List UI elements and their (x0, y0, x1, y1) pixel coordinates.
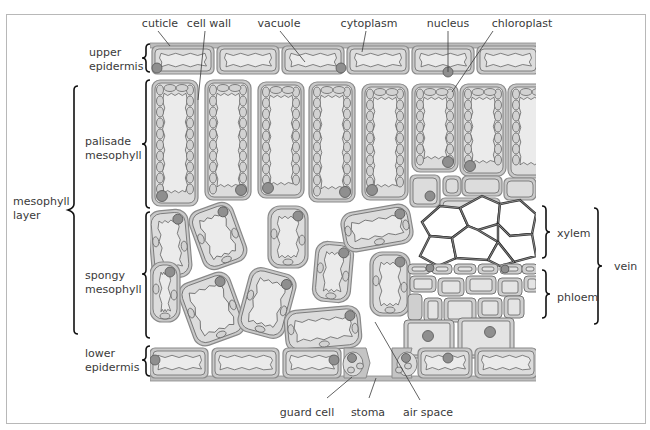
chloroplast (397, 155, 404, 165)
chloroplast (465, 122, 472, 132)
vacuole (290, 355, 335, 370)
chloroplast (397, 100, 404, 110)
nucleus (425, 191, 435, 201)
phloem-cell (498, 278, 522, 296)
parenchyma-cell (410, 175, 440, 207)
chloroplast (314, 87, 321, 97)
nucleus (293, 211, 303, 221)
chloroplast (447, 100, 454, 110)
parenchyma-cell (443, 176, 461, 196)
chloroplast (263, 120, 270, 130)
chloroplast (397, 166, 404, 176)
chloroplast (293, 98, 300, 108)
phloem-cell (438, 278, 464, 296)
nucleus (345, 310, 356, 321)
chloroplast (240, 140, 247, 150)
nucleus (443, 157, 454, 168)
chloroplast (513, 100, 520, 110)
label-lower-epidermis-1: lower (85, 347, 116, 360)
epidermal-cell (412, 46, 474, 74)
chloroplast (240, 162, 247, 172)
label-upper-epidermis-2: epidermis (89, 60, 144, 73)
chloroplast (319, 341, 329, 348)
chloroplast (447, 122, 454, 132)
phloem-cell (408, 294, 422, 320)
nucleus (402, 354, 411, 363)
chloroplast (153, 284, 159, 294)
spongy-cell (283, 305, 362, 353)
lower-epidermis (150, 348, 540, 381)
chloroplast (344, 142, 351, 152)
chloroplast (187, 162, 194, 172)
phloem-cell (478, 264, 498, 274)
chloroplast (367, 144, 374, 154)
chloroplast (210, 129, 217, 139)
vacuole (216, 93, 241, 187)
chloroplast (187, 129, 194, 139)
chloroplast (344, 120, 351, 130)
label-phloem: phloem (557, 291, 598, 304)
chloroplast (495, 144, 502, 154)
chloroplast (288, 324, 295, 334)
phloem-cell (410, 276, 436, 292)
chloroplast (314, 131, 321, 141)
chloroplast (543, 100, 550, 110)
vacuole (420, 53, 467, 67)
vacuole (485, 53, 532, 67)
vacuole (519, 97, 544, 165)
brace-lower-epidermis (142, 346, 150, 376)
vacuole (320, 95, 345, 189)
chloroplast (152, 237, 159, 247)
chloroplast (342, 271, 349, 281)
label-vein: vein (614, 260, 637, 273)
spongy-cell (339, 202, 415, 254)
phloem-cell (524, 276, 540, 292)
chloroplast (385, 307, 395, 313)
chloroplast (270, 87, 282, 94)
label-palisade-1: palisade (85, 135, 131, 148)
chloroplast (417, 144, 424, 154)
chloroplast (417, 133, 424, 143)
chloroplast (293, 175, 300, 185)
chloroplast (263, 109, 270, 119)
chloroplast (495, 155, 502, 165)
chloroplast (513, 122, 520, 132)
chloroplast (210, 107, 217, 117)
vacuole (482, 355, 531, 370)
vacuole (163, 93, 188, 193)
chloroplast (240, 96, 247, 106)
chloroplast (543, 111, 550, 121)
chloroplast (484, 89, 496, 96)
chloroplast (210, 162, 217, 172)
chloroplast (436, 89, 448, 96)
nucleus (236, 185, 247, 196)
chloroplast (417, 122, 424, 132)
nucleus (348, 354, 357, 363)
chloroplast (344, 164, 351, 174)
vacuole (160, 53, 207, 67)
spongy-cell (268, 206, 308, 268)
nucleus (443, 353, 453, 363)
chloroplast (157, 118, 164, 128)
chloroplast (157, 107, 164, 117)
parenchyma-cell (462, 176, 502, 196)
chloroplast (495, 100, 502, 110)
nucleus (150, 355, 160, 365)
chloroplast (543, 122, 550, 132)
chloroplast (417, 100, 424, 110)
chloroplast (217, 85, 229, 92)
chloroplast (513, 111, 520, 121)
brace-xylem (542, 206, 550, 258)
chloroplast (263, 131, 270, 141)
chloroplast (314, 120, 321, 130)
label-upper-epidermis-1: upper (89, 46, 122, 59)
chloroplast (164, 85, 176, 92)
palisade-cell (258, 82, 304, 198)
vacuole (423, 97, 448, 159)
chloroplast (293, 164, 300, 174)
chloroplast (314, 153, 321, 163)
chloroplast (520, 89, 532, 96)
chloroplast (373, 276, 379, 286)
chloroplast (367, 155, 374, 165)
vacuole (219, 355, 273, 370)
